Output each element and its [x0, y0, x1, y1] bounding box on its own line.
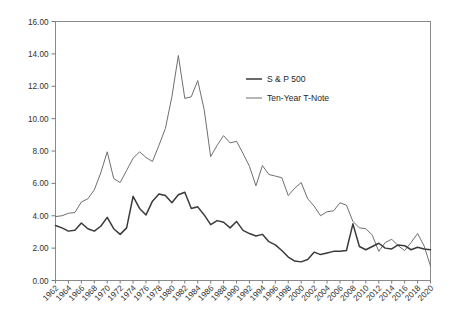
plot-area-frame	[56, 22, 431, 281]
y-tick-label: 12.00	[28, 82, 49, 91]
series-line-ten-year-t-note	[56, 55, 431, 265]
x-axis: 1962196419661968197019721974197619781980…	[41, 281, 436, 303]
y-tick-label: 2.00	[33, 244, 49, 253]
chart-container: 0.002.004.006.008.0010.0012.0014.0016.00…	[0, 0, 457, 324]
y-tick-label: 0.00	[33, 277, 49, 286]
line-chart: 0.002.004.006.008.0010.0012.0014.0016.00…	[0, 0, 457, 324]
x-tick-label: 2020	[416, 283, 436, 303]
legend-label-1: Ten-Year T-Note	[267, 93, 329, 103]
y-tick-label: 14.00	[28, 50, 49, 59]
series-line-s-p-500	[56, 192, 431, 262]
y-tick-label: 6.00	[33, 179, 49, 188]
legend: S & P 500Ten-Year T-Note	[246, 74, 329, 103]
y-tick-label: 8.00	[33, 147, 49, 156]
y-tick-label: 10.00	[28, 115, 49, 124]
y-tick-label: 16.00	[28, 18, 49, 27]
y-tick-label: 4.00	[33, 212, 49, 221]
legend-label-0: S & P 500	[267, 74, 306, 84]
y-axis: 0.002.004.006.008.0010.0012.0014.0016.00	[28, 18, 56, 286]
